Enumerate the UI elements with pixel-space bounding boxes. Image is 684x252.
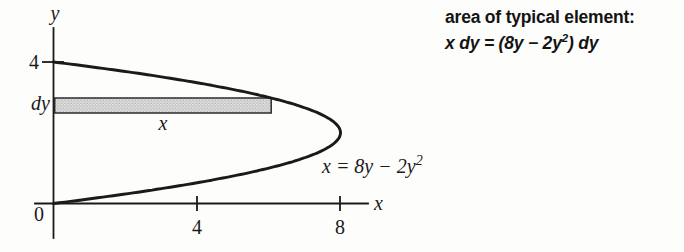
annotation-formula: x dy = (8y − 2y2) dy <box>445 28 683 54</box>
figure-canvas: y 4 dy x 0 4 8 x x = 8y − 2y2 area of ty… <box>0 0 684 252</box>
x-tick-4-label: 4 <box>192 216 202 238</box>
dy-label: dy <box>31 92 50 115</box>
origin-label: 0 <box>34 203 44 225</box>
y-tick-4-label: 4 <box>29 51 39 73</box>
annotation-title: area of typical element: <box>445 7 683 28</box>
typical-element-rect <box>55 98 272 113</box>
annotation-block: area of typical element: x dy = (8y − 2y… <box>445 7 683 54</box>
curve-equation-exponent: 2 <box>416 153 423 168</box>
parabola-curve <box>54 62 341 204</box>
y-axis-label: y <box>49 2 60 25</box>
x-tick-8-label: 8 <box>335 216 345 238</box>
x-axis-label: x <box>373 192 383 214</box>
curve-equation-label: x = 8y − 2y2 <box>321 153 423 178</box>
element-width-label: x <box>158 112 168 134</box>
